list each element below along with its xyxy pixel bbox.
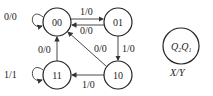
state-10-label: 10 (113, 70, 123, 81)
state-01: 01 (104, 8, 132, 36)
state-11: 11 (43, 61, 71, 89)
label-01-00: 0/0 (80, 25, 93, 36)
legend-io-label: X/Y (169, 67, 186, 78)
label-00-01: 1/0 (80, 6, 93, 17)
state-01-label: 01 (113, 17, 123, 28)
state-11-label: 11 (52, 70, 62, 81)
edge-00-self (32, 14, 43, 26)
label-10-11: 1/0 (82, 79, 95, 90)
label-11-self: 1/1 (4, 69, 17, 80)
label-01-10: 1/0 (122, 43, 135, 54)
state-00: 00 (43, 8, 71, 36)
state-00-label: 00 (52, 17, 62, 28)
legend-state-label: Q2Q1 (171, 41, 191, 53)
legend: Q2Q1 X/Y (163, 28, 199, 78)
label-00-self: 0/0 (4, 11, 17, 22)
edge-11-self (32, 68, 43, 81)
label-11-00: 0/0 (38, 44, 51, 55)
state-diagram: 0/0 1/0 0/0 1/0 0/0 1/0 0/0 1/1 00 01 11… (0, 0, 213, 96)
state-10: 10 (104, 61, 132, 89)
label-10-00: 0/0 (94, 43, 107, 54)
